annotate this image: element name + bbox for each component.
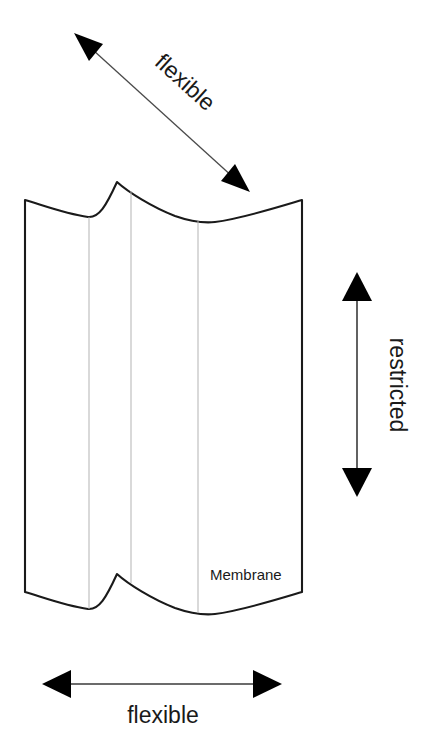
diagonal-arrow-head-lower-right	[221, 164, 250, 192]
horizontal-arrow-head-right	[253, 670, 282, 698]
diagonal-arrow-head-upper-left	[74, 33, 103, 61]
horizontal-arrow-head-left	[42, 670, 71, 698]
membrane-sheet-outline	[25, 182, 302, 614]
membrane-flexibility-diagram: Membrane flexible restricted	[0, 0, 422, 747]
diagonal-arrow-label: flexible	[150, 48, 221, 115]
horizontal-flexible-arrow	[42, 670, 282, 698]
diagram-canvas: Membrane flexible restricted	[0, 0, 422, 747]
vertical-arrow-head-up	[342, 272, 372, 301]
vertical-arrow-label: restricted	[385, 338, 411, 433]
vertical-restricted-arrow	[342, 272, 372, 497]
membrane-label: Membrane	[210, 566, 282, 583]
vertical-arrow-head-down	[342, 468, 372, 497]
horizontal-arrow-label: flexible	[127, 702, 199, 728]
